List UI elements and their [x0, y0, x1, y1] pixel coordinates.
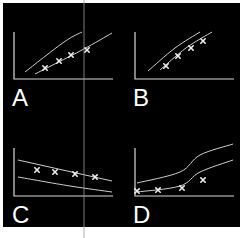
- panel-c-x-marker-icon: [53, 170, 57, 174]
- panel-c-label: C: [12, 201, 29, 228]
- panel-d-lower-curve: [137, 160, 233, 192]
- panel-b-x-marker-icon: [189, 46, 193, 50]
- panel-b-x-marker-icon: [201, 39, 205, 43]
- panel-b-axes: [135, 32, 234, 79]
- panel-a-x-marker-icon: [85, 48, 89, 52]
- panel-b-upper-curve: [148, 32, 200, 71]
- panel-d-upper-curve: [137, 144, 233, 183]
- panel-a-axes: [14, 32, 113, 79]
- panel-a-label: A: [12, 84, 28, 111]
- panel-d-x-marker-icon: [201, 178, 205, 182]
- panel-b-label: B: [133, 84, 149, 111]
- panel-a-upper-curve: [25, 32, 82, 72]
- figure-canvas: A B C D: [0, 0, 243, 238]
- panel-d-x-marker-icon: [180, 186, 184, 190]
- panel-c-axes: [14, 148, 113, 196]
- panel-d-label: D: [133, 201, 150, 228]
- panel-d-axes: [135, 148, 234, 196]
- panel-c-upper-curve: [18, 160, 112, 181]
- panel-c-x-marker-icon: [35, 168, 39, 172]
